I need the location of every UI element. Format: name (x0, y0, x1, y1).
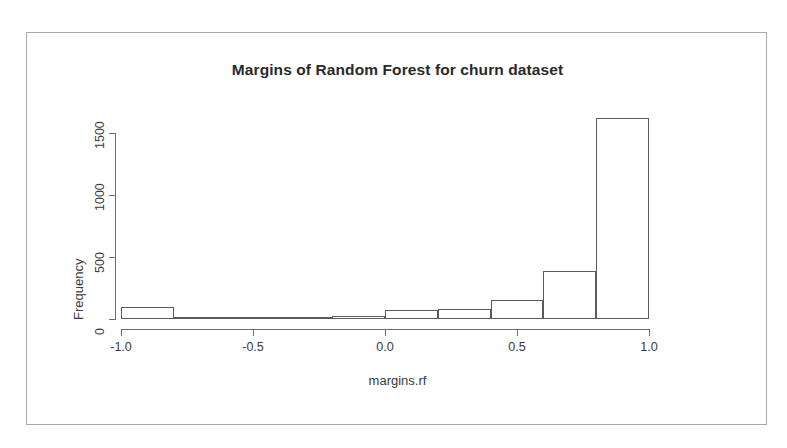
x-axis-tick-label: 0.0 (362, 340, 408, 354)
y-axis-tick-label: 500 (93, 252, 107, 273)
x-axis-tick-label: -0.5 (230, 340, 276, 354)
x-axis-tick (649, 329, 650, 336)
x-axis-label: margins.rf (27, 373, 768, 388)
histogram-bar (227, 317, 280, 319)
x-axis-tick (517, 329, 518, 336)
histogram-bar (174, 317, 227, 319)
x-axis-tick (385, 329, 386, 336)
y-axis-tick-label: 1000 (93, 183, 107, 211)
y-axis-tick (109, 133, 116, 134)
y-axis-tick (109, 257, 116, 258)
y-axis-tick-label: 0 (93, 328, 107, 335)
histogram-bar (543, 271, 596, 319)
x-axis-tick (121, 329, 122, 336)
histogram-bar (491, 300, 544, 319)
y-axis-tick (109, 195, 116, 196)
chart-title: Margins of Random Forest for churn datas… (27, 61, 768, 79)
x-axis-tick-label: 0.5 (494, 340, 540, 354)
histogram-bar (121, 307, 174, 319)
scanned-page: Margins of Random Forest for churn datas… (0, 0, 787, 448)
x-axis-tick-label: -1.0 (98, 340, 144, 354)
x-axis-tick (253, 329, 254, 336)
histogram-plot-area (121, 109, 649, 319)
histogram-bar (332, 316, 385, 319)
histogram-bar (385, 310, 438, 319)
histogram-bar (596, 118, 649, 319)
x-axis-tick-label: 1.0 (626, 340, 672, 354)
histogram-bar (279, 317, 332, 319)
y-axis-tick-label: 1500 (93, 121, 107, 149)
y-axis-label-container: Frequency (71, 133, 87, 320)
y-axis-line (115, 133, 116, 320)
figure-frame: Margins of Random Forest for churn datas… (26, 32, 767, 425)
y-axis-label: Frequency (71, 259, 86, 320)
y-axis-tick (109, 319, 116, 320)
histogram-bar (438, 309, 491, 319)
